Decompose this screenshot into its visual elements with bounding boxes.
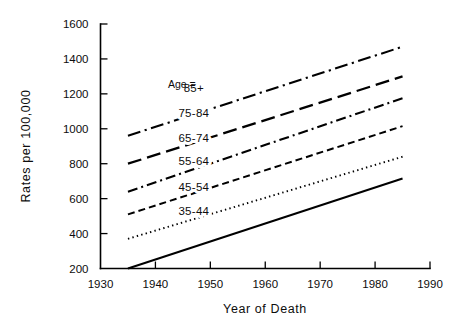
y-tick-label: 800 [69,158,88,170]
x-axis-title: Year of Death [223,302,307,316]
legend-header: Age = [168,78,196,90]
series-label-65-74: 65-74 [178,132,209,144]
series-label-75-84: 75-84 [178,107,209,119]
x-tick-label: 1970 [307,278,333,290]
y-axis-title: Rates per 100,000 [19,89,33,202]
series-label-35-44: 35-44 [178,205,209,217]
series-line-55-64 [128,126,403,214]
y-tick-label: 1000 [63,123,89,135]
x-tick-label: 1960 [252,278,278,290]
series-line-45-54 [128,157,403,239]
x-tick-group [155,262,430,269]
y-tick-label: 1200 [63,88,89,100]
y-tick-label: 600 [69,193,88,205]
x-tick-label: 1950 [198,278,224,290]
series-label-55-64: 55-64 [178,155,209,167]
chart-container: 2004006008001000120014001600 19301940195… [0,0,465,325]
series-line-85- [128,47,403,136]
y-tick-group [101,24,108,234]
y-tick-label: 1400 [63,53,89,65]
x-tick-label: 1930 [88,278,114,290]
y-tick-label: 200 [69,263,88,275]
mortality-rate-line-chart: 2004006008001000120014001600 19301940195… [0,0,465,325]
y-tick-label: 1600 [63,18,89,30]
series-label-45-54: 45-54 [178,181,209,193]
series-line-65-74 [128,98,403,191]
x-tick-label: 1990 [417,278,443,290]
y-tick-label: 400 [69,228,88,240]
series-line-35-44 [128,179,403,269]
x-tick-label: 1940 [143,278,169,290]
x-tick-label-group: 1930194019501960197019801990 [88,278,443,290]
x-tick-label: 1980 [362,278,388,290]
y-tick-label-group: 2004006008001000120014001600 [63,18,89,275]
